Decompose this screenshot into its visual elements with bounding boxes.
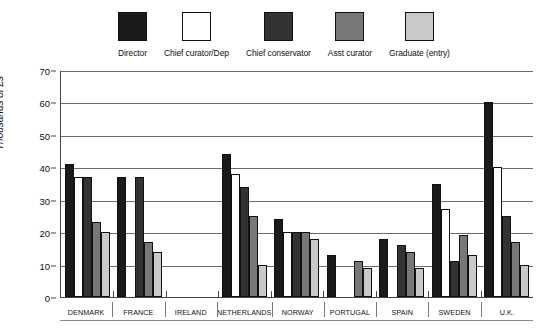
x-axis-label: PORTUGAL bbox=[330, 308, 370, 317]
bar bbox=[144, 242, 153, 297]
x-axis-label: DENMARK bbox=[68, 308, 105, 317]
x-axis-label: U.K. bbox=[500, 308, 514, 317]
bar bbox=[274, 219, 283, 297]
bar-group bbox=[218, 71, 270, 297]
legend-item: Director bbox=[118, 12, 147, 58]
bar-groups bbox=[61, 71, 533, 297]
bar bbox=[153, 252, 162, 297]
plot-area bbox=[60, 71, 533, 298]
bar-group bbox=[323, 71, 375, 297]
bar bbox=[511, 242, 520, 297]
y-tick-mark bbox=[51, 135, 56, 136]
legend-item: Asst curator bbox=[328, 12, 372, 58]
bar bbox=[222, 154, 231, 297]
bar bbox=[397, 245, 406, 297]
bar bbox=[135, 177, 144, 297]
y-tick-label: 20 bbox=[39, 228, 50, 239]
x-label-cell: NORWAY bbox=[272, 303, 324, 325]
x-label-cell: DENMARK bbox=[60, 303, 112, 325]
bar bbox=[432, 184, 441, 298]
x-label-cell: U.K. bbox=[481, 303, 533, 325]
x-label-cell: SPAIN bbox=[376, 303, 428, 325]
bar bbox=[327, 255, 336, 297]
x-axis-label: SWEDEN bbox=[438, 308, 470, 317]
x-axis-labels: DENMARKFRANCEIRELANDNETHERLANDSNORWAYPOR… bbox=[60, 303, 533, 325]
x-axis-label: NETHERLANDS bbox=[217, 308, 272, 317]
bar bbox=[363, 268, 372, 297]
bar bbox=[520, 265, 529, 297]
x-label-cell: SWEDEN bbox=[428, 303, 480, 325]
bar bbox=[83, 177, 92, 297]
bar bbox=[354, 261, 363, 297]
y-tick-mark bbox=[51, 298, 56, 299]
bar-group bbox=[481, 71, 533, 297]
x-axis-label: FRANCE bbox=[123, 308, 153, 317]
legend-label: Chief curator/Dep bbox=[164, 48, 229, 58]
bar-group bbox=[113, 71, 165, 297]
bar bbox=[502, 216, 511, 297]
legend-swatch-icon bbox=[335, 12, 364, 41]
bar bbox=[292, 232, 301, 297]
bar bbox=[258, 265, 267, 297]
bar bbox=[231, 174, 240, 297]
legend-item: Graduate (entry) bbox=[389, 12, 450, 58]
x-label-cell: IRELAND bbox=[165, 303, 217, 325]
x-axis-underline bbox=[60, 320, 533, 321]
legend-swatch-icon bbox=[264, 12, 293, 41]
y-tick-mark bbox=[51, 103, 56, 104]
y-tick-mark bbox=[51, 168, 56, 169]
y-tick-label: 40 bbox=[39, 163, 50, 174]
y-tick-mark bbox=[51, 200, 56, 201]
bar bbox=[249, 216, 258, 297]
bar bbox=[101, 232, 110, 297]
bar bbox=[301, 232, 310, 297]
bar bbox=[441, 209, 450, 297]
bar bbox=[117, 177, 126, 297]
x-label-cell: PORTUGAL bbox=[324, 303, 376, 325]
bar bbox=[406, 252, 415, 297]
legend-item: Chief conservator bbox=[246, 12, 311, 58]
x-axis-label: SPAIN bbox=[391, 308, 413, 317]
bar bbox=[310, 239, 319, 297]
x-axis-label: NORWAY bbox=[282, 308, 314, 317]
y-tick-mark bbox=[51, 71, 56, 72]
y-tick-label: 70 bbox=[39, 66, 50, 77]
x-axis-label: IRELAND bbox=[175, 308, 207, 317]
bar bbox=[283, 232, 292, 297]
bar bbox=[493, 167, 502, 297]
bar bbox=[379, 239, 388, 297]
legend-label: Asst curator bbox=[328, 48, 372, 58]
bar-group bbox=[61, 71, 113, 297]
y-tick-label: 50 bbox=[39, 130, 50, 141]
x-label-cell: FRANCE bbox=[112, 303, 164, 325]
y-tick-label: 10 bbox=[39, 260, 50, 271]
legend-item: Chief curator/Dep bbox=[164, 12, 229, 58]
legend-label: Director bbox=[118, 48, 147, 58]
legend-swatch-icon bbox=[118, 12, 147, 41]
bar-group bbox=[376, 71, 428, 297]
bar bbox=[450, 261, 459, 297]
bar bbox=[468, 255, 477, 297]
bar bbox=[65, 164, 74, 297]
bar bbox=[240, 187, 249, 297]
bar-group bbox=[166, 71, 218, 297]
bar-chart: DirectorChief curator/DepChief conservat… bbox=[0, 0, 551, 333]
legend-label: Graduate (entry) bbox=[389, 48, 450, 58]
x-label-cell: NETHERLANDS bbox=[217, 303, 272, 325]
chart-legend: DirectorChief curator/DepChief conservat… bbox=[118, 12, 450, 58]
bar bbox=[415, 268, 424, 297]
y-tick-label: 0 bbox=[45, 293, 50, 304]
legend-swatch-icon bbox=[182, 12, 211, 41]
bar bbox=[484, 102, 493, 297]
bar-group bbox=[271, 71, 323, 297]
bar bbox=[74, 177, 83, 297]
bar bbox=[459, 235, 468, 297]
y-tick-label: 30 bbox=[39, 195, 50, 206]
y-tick-mark bbox=[51, 265, 56, 266]
bar-group bbox=[428, 71, 480, 297]
y-tick-mark bbox=[51, 233, 56, 234]
bar bbox=[92, 222, 101, 297]
legend-swatch-icon bbox=[405, 12, 434, 41]
y-tick-label: 60 bbox=[39, 98, 50, 109]
y-axis-ticks: 010203040506070 bbox=[0, 71, 56, 298]
